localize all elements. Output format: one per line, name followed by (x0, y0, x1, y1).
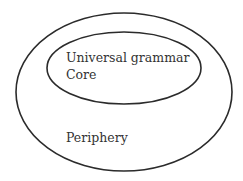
universal-grammar-label: Universal grammar (66, 50, 189, 65)
core-periphery-diagram: Universal grammar Core Periphery (0, 0, 243, 181)
periphery-label: Periphery (66, 130, 129, 145)
core-label: Core (66, 67, 96, 82)
periphery-ellipse (16, 13, 232, 171)
